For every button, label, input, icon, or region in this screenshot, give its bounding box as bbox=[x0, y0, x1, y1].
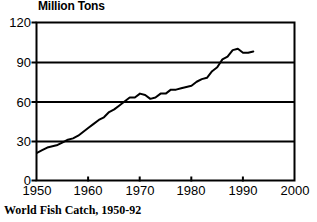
y-axis-label-30: 30 bbox=[0, 135, 31, 148]
y-axis-label-60: 60 bbox=[0, 96, 31, 109]
x-axis-label-1960: 1960 bbox=[68, 184, 108, 197]
y-axis-label-120: 120 bbox=[0, 16, 31, 29]
y-axis-label-90: 90 bbox=[0, 56, 31, 69]
chart-figure: Million Tons 120 90 60 30 0 bbox=[0, 0, 317, 222]
x-axis-label-1990: 1990 bbox=[223, 184, 263, 197]
x-axis-label-2000: 2000 bbox=[275, 184, 315, 197]
data-line-world-fish-catch bbox=[37, 49, 253, 153]
gridlines bbox=[37, 63, 295, 142]
x-axis-label-1970: 1970 bbox=[120, 184, 160, 197]
x-axis-label-1950: 1950 bbox=[17, 184, 57, 197]
chart-caption: World Fish Catch, 1950-92 bbox=[4, 203, 141, 218]
x-axis-label-1980: 1980 bbox=[171, 184, 211, 197]
